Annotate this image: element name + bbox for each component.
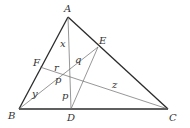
label-q: q	[75, 54, 81, 65]
label-x: x	[60, 38, 66, 49]
triangle-diagram: A E F B D C x q r p y p z	[0, 0, 190, 128]
label-f: F	[32, 57, 41, 68]
label-p-upper: p	[55, 74, 62, 85]
label-r: r	[54, 62, 60, 73]
side-ac	[68, 17, 168, 109]
label-y: y	[31, 88, 38, 99]
label-z: z	[111, 79, 118, 90]
label-a: A	[63, 3, 71, 14]
label-d: D	[66, 112, 75, 123]
label-c: C	[169, 112, 177, 123]
label-b: B	[7, 110, 15, 121]
side-ab	[19, 17, 68, 109]
label-e: E	[98, 35, 107, 46]
cevian-ad	[68, 17, 71, 109]
label-p-lower: p	[62, 90, 69, 101]
